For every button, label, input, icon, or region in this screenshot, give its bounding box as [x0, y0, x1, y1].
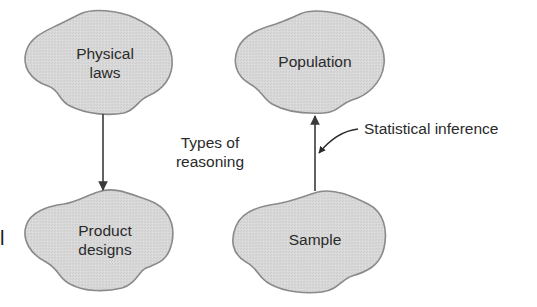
sample-label: Sample [265, 230, 365, 249]
physical-laws-label: Physical laws [60, 44, 150, 82]
product-designs-line2: designs [60, 240, 150, 259]
population-label: Population [260, 52, 370, 71]
cropped-text-fragment: l [0, 227, 4, 249]
reasoning-line: reasoning [160, 152, 260, 171]
product-designs-label: Product designs [60, 221, 150, 259]
types-of-line: Types of [160, 133, 260, 152]
types-of-reasoning-label: Types of reasoning [160, 133, 260, 171]
product-designs-line1: Product [60, 221, 150, 240]
physical-laws-line1: Physical [60, 44, 150, 63]
annotation-leader-icon [319, 129, 358, 153]
physical-laws-line2: laws [60, 63, 150, 82]
statistical-inference-label: Statistical inference [364, 119, 498, 139]
